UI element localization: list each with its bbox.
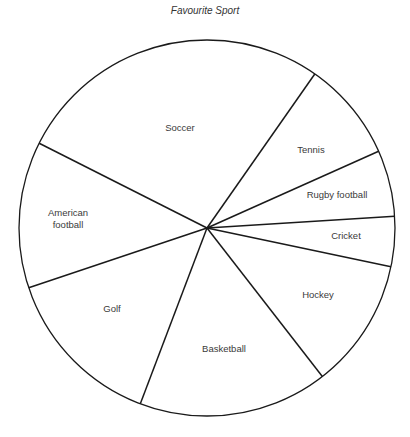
pie-chart: SoccerTennisRugby footballCricketHockeyB… xyxy=(0,0,410,437)
slice-label: Hockey xyxy=(302,289,334,300)
slice-label: Basketball xyxy=(202,343,246,354)
slice-label: football xyxy=(53,219,84,230)
slice-label: Golf xyxy=(103,303,121,314)
slice-label: Tennis xyxy=(297,144,325,155)
slice-label: Soccer xyxy=(165,122,195,133)
slice-label: Rugby football xyxy=(307,189,368,200)
slice-label: American xyxy=(48,207,88,218)
slice-label: Cricket xyxy=(331,230,361,241)
